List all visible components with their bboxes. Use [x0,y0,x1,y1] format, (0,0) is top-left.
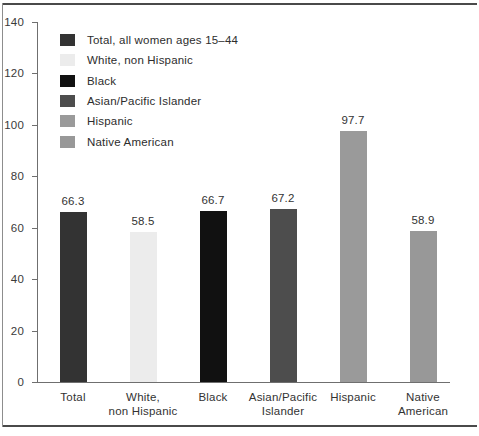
bar: 58.5 [130,232,157,382]
bar: 66.3 [60,212,87,382]
legend-label: Total, all women ages 15–44 [87,34,238,46]
y-tick-label: 60 [11,222,24,234]
frame-top-rule [2,3,477,5]
legend-item: White, non Hispanic [60,50,238,70]
legend-item: Black [60,71,238,91]
x-category-label: Native American [398,390,448,418]
y-axis-line [37,22,38,382]
legend-item: Total, all women ages 15–44 [60,30,238,50]
legend-swatch-icon [60,54,75,66]
y-tick-mark: 20 [32,331,37,332]
legend-swatch-icon [60,34,75,46]
x-category-label: Black [198,390,227,404]
y-tick-label: 20 [11,325,24,337]
frame-bottom-rule [2,425,477,427]
y-tick-label: 100 [4,119,24,131]
bar: 58.9 [410,231,437,382]
x-category-label: Total [60,390,85,404]
legend-label: Black [87,75,116,87]
y-tick-mark: 100 [32,125,37,126]
legend-swatch-icon [60,75,75,87]
y-tick-label: 120 [4,67,24,79]
bar-value-label: 58.5 [131,215,154,227]
y-tick-mark: 0 [32,382,37,383]
y-tick-mark: 40 [32,279,37,280]
bar: 66.7 [200,211,227,383]
chart-figure: 020406080100120140 66.358.566.767.297.75… [0,0,479,436]
y-tick-label: 40 [11,273,24,285]
legend-item: Hispanic [60,111,238,131]
legend-swatch-icon [60,95,75,107]
legend-label: Native American [87,136,174,148]
legend-label: White, non Hispanic [87,54,193,66]
x-axis-line [37,382,450,383]
x-category-label: Hispanic [330,390,376,404]
x-category-label: Asian/Pacific Islander [249,390,317,418]
bar: 97.7 [340,131,367,382]
legend-swatch-icon [60,115,75,127]
y-tick-label: 80 [11,170,24,182]
legend-item: Native American [60,131,238,151]
frame-left-rule [2,3,3,427]
legend-label: Hispanic [87,115,133,127]
legend-swatch-icon [60,136,75,148]
chart-legend: Total, all women ages 15–44White, non Hi… [60,30,238,152]
bar: 67.2 [270,209,297,382]
y-tick-label: 140 [4,16,24,28]
y-tick-label: 0 [17,376,24,388]
y-tick-mark: 140 [32,22,37,23]
legend-label: Asian/Pacific Islander [87,95,201,107]
bar-value-label: 66.3 [61,195,84,207]
bar-value-label: 97.7 [341,114,364,126]
bar-value-label: 58.9 [411,214,434,226]
y-tick-mark: 80 [32,176,37,177]
bar-value-label: 67.2 [271,192,294,204]
bar-value-label: 66.7 [201,194,224,206]
y-tick-mark: 120 [32,73,37,74]
x-category-label: White, non Hispanic [109,390,178,418]
y-tick-mark: 60 [32,228,37,229]
legend-item: Asian/Pacific Islander [60,91,238,111]
